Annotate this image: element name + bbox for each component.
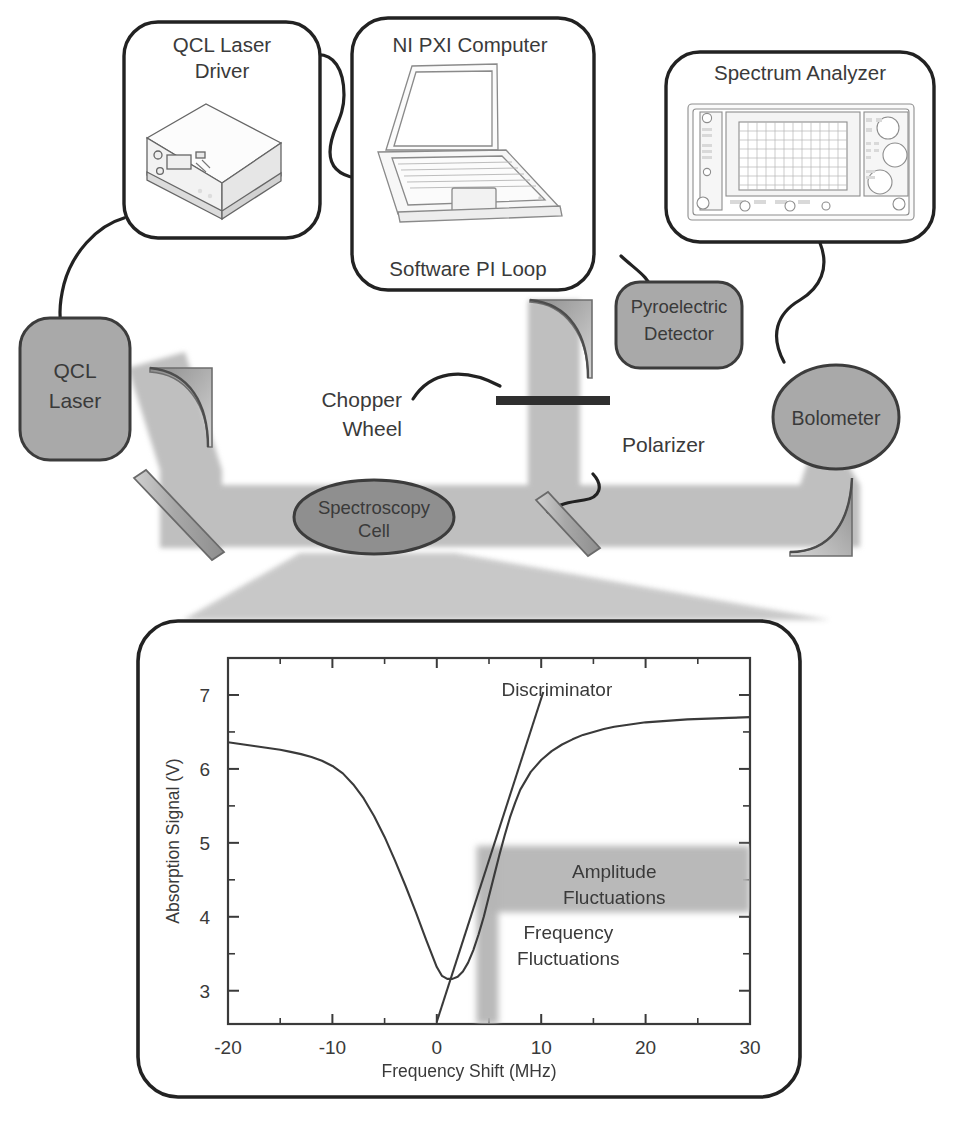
optical-component-qcl-laser[interactable]: QCL Laser: [20, 318, 130, 460]
instrument-box-qcl-laser-driver[interactable]: QCL Laser Driver: [124, 22, 320, 238]
beam-main-horizontal: [160, 485, 860, 547]
pyro-label-line2: Detector: [644, 323, 714, 344]
pyro-label-line1: Pyroelectric: [631, 296, 728, 317]
y-axis-title: Absorption Signal (V): [163, 758, 183, 923]
cable-chopper-callout: [413, 374, 500, 399]
x-axis-title: Frequency Shift (MHz): [381, 1061, 556, 1081]
discriminator-label: Discriminator: [501, 679, 613, 700]
instrument-box-spectrum-analyzer[interactable]: Spectrum Analyzer: [666, 52, 934, 242]
y-tick-label: 4: [199, 907, 210, 928]
amplitude-fluctuations-label: Amplitude: [572, 861, 657, 882]
instrument-box-ni-pxi-computer[interactable]: NI PXI Computer Software PI Loop: [352, 18, 594, 290]
x-tick-label: 30: [739, 1037, 760, 1058]
bolometer-label: Bolometer: [792, 407, 881, 429]
diagram-canvas: QCL Laser Driver NI PXI Computer: [0, 0, 953, 1133]
optical-component-chopper-wheel[interactable]: [496, 396, 610, 405]
figure-root: QCL Laser Driver NI PXI Computer: [0, 0, 953, 1133]
y-tick-label: 5: [199, 833, 210, 854]
x-tick-label: 10: [531, 1037, 552, 1058]
pxi-label-line2: Software PI Loop: [389, 257, 546, 280]
cell-label-line1: Spectroscopy: [318, 497, 431, 518]
spectrum-analyzer-front-panel-icon: [688, 104, 914, 220]
amplitude-fluctuations-label: Fluctuations: [563, 887, 665, 908]
x-tick-label: -10: [319, 1037, 346, 1058]
polarizer-label: Polarizer: [622, 433, 705, 456]
qcl-driver-label-line2: Driver: [195, 59, 250, 82]
y-tick-label: 7: [199, 685, 210, 706]
cable-analyzer-to-bolometer: [777, 243, 824, 362]
pxi-label-line1: NI PXI Computer: [393, 33, 548, 56]
optical-component-spectroscopy-cell[interactable]: Spectroscopy Cell: [294, 480, 454, 554]
chopper-label-line1: Chopper: [321, 388, 402, 411]
spectrum-analyzer-label: Spectrum Analyzer: [714, 61, 886, 84]
zoom-cone: [183, 553, 830, 620]
qcl-driver-label-line1: QCL Laser: [173, 33, 272, 56]
optical-component-pyroelectric-detector[interactable]: Pyroelectric Detector: [616, 282, 742, 368]
x-tick-label: 20: [635, 1037, 656, 1058]
frequency-fluctuations-label: Fluctuations: [517, 948, 619, 969]
x-tick-label: 0: [432, 1037, 443, 1058]
optical-beam-group: [128, 300, 860, 548]
x-tick-label: -20: [214, 1037, 241, 1058]
y-tick-label: 6: [199, 759, 210, 780]
qcl-laser-label-line2: Laser: [49, 389, 102, 412]
callout-label-polarizer: Polarizer: [622, 433, 705, 456]
chopper-label-line2: Wheel: [342, 417, 402, 440]
optical-component-bolometer[interactable]: Bolometer: [773, 365, 899, 469]
frequency-fluctuations-label: Frequency: [523, 922, 613, 943]
callout-label-chopper-wheel: Chopper Wheel: [321, 388, 402, 440]
qcl-laser-label-line1: QCL: [53, 359, 96, 382]
cell-label-line2: Cell: [358, 520, 390, 541]
y-tick-label: 3: [199, 981, 210, 1002]
chart-panel: -20-10010203034567 DiscriminatorAmplitud…: [138, 621, 800, 1097]
